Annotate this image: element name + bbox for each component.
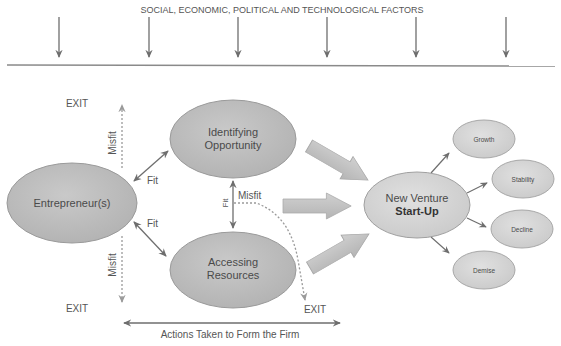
outcome-demise: Demise bbox=[453, 251, 515, 289]
node-venture-line1: New Venture bbox=[386, 192, 449, 204]
node-identifying-line1: Identifying bbox=[208, 126, 258, 138]
exit-top-left-label: EXIT bbox=[66, 98, 88, 109]
exit-bottom-middle-label: EXIT bbox=[304, 304, 326, 315]
node-identifying-line2: Opportunity bbox=[205, 139, 262, 151]
outcome-arrow-stability bbox=[467, 183, 487, 193]
exit-bottom-left-label: EXIT bbox=[66, 303, 88, 314]
environment-baseline bbox=[7, 65, 555, 66]
outcome-arrow-decline bbox=[467, 218, 486, 227]
misfit-middle-label: Misfit bbox=[238, 190, 262, 201]
fit-lower-label: Fit bbox=[147, 218, 158, 229]
outcome-stability: Stability bbox=[492, 160, 554, 198]
fit-middle-label: Fit bbox=[221, 198, 230, 208]
outcome-decline: Decline bbox=[491, 210, 553, 248]
misfit-lower-label: Misfit bbox=[107, 253, 118, 277]
outcome-decline-label: Decline bbox=[511, 226, 533, 233]
block-arrow-middle bbox=[283, 193, 351, 219]
factors-title: SOCIAL, ECONOMIC, POLITICAL AND TECHNOLO… bbox=[140, 5, 423, 15]
misfit-upper-label: Misfit bbox=[107, 131, 118, 155]
node-venture-line2: Start-Up bbox=[395, 205, 439, 217]
block-arrow-upper bbox=[303, 135, 375, 192]
node-accessing-line2: Resources bbox=[207, 269, 260, 281]
outcome-growth: Growth bbox=[453, 120, 515, 158]
block-arrow-lower bbox=[304, 223, 376, 280]
diagram-canvas: SOCIAL, ECONOMIC, POLITICAL AND TECHNOLO… bbox=[0, 0, 561, 346]
factor-arrows bbox=[59, 17, 506, 57]
node-identifying-opportunity: Identifying Opportunity bbox=[170, 100, 296, 178]
outcome-growth-label: Growth bbox=[474, 136, 495, 143]
outcome-demise-label: Demise bbox=[473, 267, 495, 274]
node-accessing-resources: Accessing Resources bbox=[170, 232, 296, 308]
outcome-stability-label: Stability bbox=[512, 176, 536, 184]
node-accessing-line1: Accessing bbox=[208, 256, 258, 268]
node-entrepreneur-label: Entrepreneur(s) bbox=[33, 197, 110, 209]
node-entrepreneur: Entrepreneur(s) bbox=[7, 163, 137, 243]
fit-upper-label: Fit bbox=[147, 175, 158, 186]
actions-label: Actions Taken to Form the Firm bbox=[161, 329, 300, 340]
node-new-venture: New Venture Start-Up bbox=[364, 172, 470, 238]
outcome-arrow-growth bbox=[431, 153, 449, 173]
outcome-arrow-demise bbox=[431, 237, 449, 253]
